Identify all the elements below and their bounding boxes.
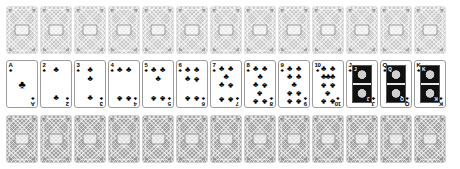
card-back[interactable] xyxy=(244,115,276,163)
playing-card-5-of-clubs[interactable]: 5♣5♣♣♣♣♣♣ xyxy=(142,60,174,108)
clubs-suit-icon: ♣ xyxy=(406,96,409,101)
court-mini-rank: J xyxy=(367,96,370,101)
playing-card-9-of-clubs[interactable]: 9♣9♣♣♣♣♣♣♣♣♣♣ xyxy=(278,60,310,108)
card-pip-group: ♣♣♣♣♣♣ xyxy=(183,65,201,103)
clubs-pip-icon: ♣ xyxy=(117,66,122,74)
back-medallion-icon xyxy=(423,25,438,36)
card-back[interactable] xyxy=(210,6,242,54)
card-back[interactable] xyxy=(74,115,106,163)
playing-card-2-of-clubs[interactable]: 2♣2♣♣♣ xyxy=(40,60,72,108)
card-back[interactable] xyxy=(346,6,378,54)
card-back[interactable] xyxy=(210,115,242,163)
card-pip-group: ♣♣♣♣♣♣♣ xyxy=(217,65,235,103)
court-figure-illustration: JJ xyxy=(352,65,372,103)
card-back[interactable] xyxy=(312,115,344,163)
clubs-pip-icon: ♣ xyxy=(291,81,296,89)
card-pip-group: ♣♣ xyxy=(47,65,65,103)
back-medallion-icon xyxy=(151,25,166,36)
card-corner-index: K♣ xyxy=(439,96,443,107)
court-figure-illustration: KK xyxy=(420,65,440,103)
playing-card-j-of-clubs[interactable]: J♣J♣JJ xyxy=(346,60,378,108)
card-back[interactable] xyxy=(414,6,446,54)
back-medallion-icon xyxy=(355,25,370,36)
clubs-suit-icon: ♣ xyxy=(43,68,46,73)
court-mini-rank: Q xyxy=(400,96,404,101)
playing-card-q-of-clubs[interactable]: Q♣Q♣QQ xyxy=(380,60,412,108)
clubs-pip-icon: ♣ xyxy=(228,81,233,89)
card-back[interactable] xyxy=(40,115,72,163)
court-figure-illustration: QQ xyxy=(386,65,406,103)
clubs-suit-icon: ♣ xyxy=(145,68,148,73)
back-medallion-icon xyxy=(389,25,404,36)
card-corner-index: J♣ xyxy=(372,96,375,107)
back-medallion-icon xyxy=(219,134,234,145)
clubs-pip-icon: ♣ xyxy=(287,97,292,105)
back-medallion-icon xyxy=(219,25,234,36)
card-corner-index: 3♣ xyxy=(77,62,80,73)
card-back[interactable] xyxy=(108,115,140,163)
clubs-pip-icon: ♣ xyxy=(253,81,258,89)
card-back[interactable] xyxy=(6,6,38,54)
clubs-suit-icon: ♣ xyxy=(337,96,340,101)
card-corner-index: 5♣ xyxy=(145,62,148,73)
clubs-pip-icon: ♣ xyxy=(185,94,190,102)
face-down-row-bottom xyxy=(0,115,460,163)
card-corner-index: 2♣ xyxy=(43,62,46,73)
clubs-pip-icon: ♣ xyxy=(330,81,335,89)
clubs-pip-icon: ♣ xyxy=(18,79,25,90)
card-corner-index: 6♣ xyxy=(202,96,205,107)
card-back[interactable] xyxy=(142,115,174,163)
clubs-suit-icon: ♣ xyxy=(213,68,216,73)
playing-card-4-of-clubs[interactable]: 4♣4♣♣♣♣♣ xyxy=(108,60,140,108)
clubs-pip-icon: ♣ xyxy=(155,75,160,83)
card-back[interactable] xyxy=(312,6,344,54)
back-medallion-icon xyxy=(321,25,336,36)
clubs-pip-icon: ♣ xyxy=(321,73,326,81)
back-medallion-icon xyxy=(117,134,132,145)
clubs-suit-icon: ♣ xyxy=(77,68,80,73)
back-medallion-icon xyxy=(185,134,200,145)
clubs-pip-icon: ♣ xyxy=(87,94,92,102)
card-back[interactable] xyxy=(346,115,378,163)
playing-card-k-of-clubs[interactable]: K♣K♣KK xyxy=(414,60,446,108)
card-back[interactable] xyxy=(278,6,310,54)
card-corner-index: 9♣ xyxy=(304,96,307,107)
card-pip-group: ♣♣♣ xyxy=(81,65,99,103)
court-mini-rank: K xyxy=(422,67,426,72)
playing-card-10-of-clubs[interactable]: 10♣10♣♣♣♣♣♣♣♣♣♣♣ xyxy=(312,60,344,108)
clubs-pip-icon: ♣ xyxy=(194,66,199,74)
clubs-pip-icon: ♣ xyxy=(223,73,228,81)
clubs-pip-icon: ♣ xyxy=(325,89,330,97)
playing-card-7-of-clubs[interactable]: 7♣7♣♣♣♣♣♣♣♣ xyxy=(210,60,242,108)
playing-card-a-of-clubs[interactable]: A♣A♣♣ xyxy=(6,60,38,108)
card-back[interactable] xyxy=(414,115,446,163)
back-medallion-icon xyxy=(423,134,438,145)
card-back[interactable] xyxy=(74,6,106,54)
face-down-row-top xyxy=(0,6,460,54)
clubs-pip-icon: ♣ xyxy=(126,94,131,102)
clubs-pip-icon: ♣ xyxy=(87,75,92,83)
card-back[interactable] xyxy=(380,115,412,163)
card-corner-index: 8♣ xyxy=(270,96,273,107)
back-medallion-icon xyxy=(49,134,64,145)
clubs-pip-icon: ♣ xyxy=(228,95,233,103)
card-corner-index: 5♣ xyxy=(168,96,171,107)
playing-card-3-of-clubs[interactable]: 3♣3♣♣♣♣ xyxy=(74,60,106,108)
playing-card-8-of-clubs[interactable]: 8♣8♣♣♣♣♣♣♣♣♣ xyxy=(244,60,276,108)
card-back[interactable] xyxy=(40,6,72,54)
card-back[interactable] xyxy=(142,6,174,54)
card-back[interactable] xyxy=(176,115,208,163)
clubs-pip-icon: ♣ xyxy=(160,94,165,102)
back-medallion-icon xyxy=(253,134,268,145)
card-back[interactable] xyxy=(108,6,140,54)
playing-card-6-of-clubs[interactable]: 6♣6♣♣♣♣♣♣♣ xyxy=(176,60,208,108)
card-back[interactable] xyxy=(6,115,38,163)
card-back[interactable] xyxy=(244,6,276,54)
card-back[interactable] xyxy=(380,6,412,54)
clubs-pip-icon: ♣ xyxy=(219,95,224,103)
card-back[interactable] xyxy=(278,115,310,163)
card-corner-index: 6♣ xyxy=(179,62,182,73)
clubs-pip-icon: ♣ xyxy=(117,94,122,102)
card-back[interactable] xyxy=(176,6,208,54)
clubs-pip-icon: ♣ xyxy=(185,75,190,83)
